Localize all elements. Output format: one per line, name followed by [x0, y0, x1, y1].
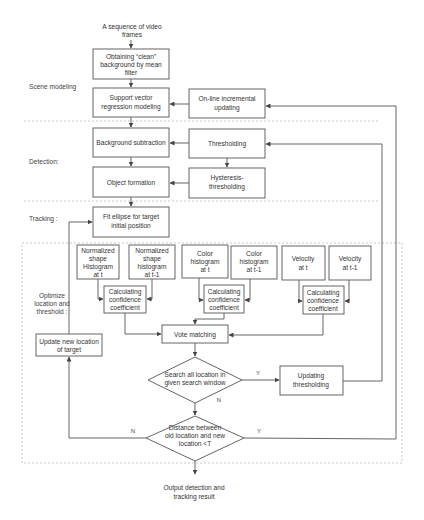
- svg-text:histogram: histogram: [138, 263, 167, 271]
- node-fit-ellipse: Fit ellipse for target initial position: [93, 207, 169, 237]
- section-label-detection: Detection:: [29, 158, 59, 165]
- node-confidence-color: Calculating confidence coefficient: [204, 285, 244, 313]
- svg-text:Calculating: Calculating: [208, 288, 241, 296]
- svg-text:Object formation: Object formation: [107, 179, 156, 187]
- svg-text:of target: of target: [57, 346, 81, 354]
- svg-text:Output detection and: Output detection and: [163, 484, 225, 492]
- svg-text:thresholding: thresholding: [293, 381, 329, 389]
- svg-text:A sequence of video: A sequence of video: [102, 23, 162, 31]
- input-label: A sequence of video frames: [102, 23, 162, 38]
- node-velocity-t: Velocity at t: [282, 246, 325, 280]
- svg-text:location and: location and: [34, 300, 70, 307]
- node-object-formation: Object formation: [93, 167, 169, 197]
- svg-text:Calculating: Calculating: [307, 289, 340, 297]
- svg-text:background by mean: background by mean: [100, 61, 162, 69]
- label-search-yes: Y: [256, 370, 260, 376]
- edge-color-t-to-confidence: [199, 278, 203, 300]
- node-search-decision: Search all location in given search wind…: [148, 357, 242, 403]
- svg-text:Normalized: Normalized: [135, 247, 169, 254]
- edge-shape-t-to-confidence: [98, 279, 103, 299]
- svg-text:confidence: confidence: [307, 297, 339, 304]
- svg-text:at t: at t: [200, 266, 209, 273]
- svg-text:threshold :: threshold :: [37, 308, 68, 315]
- node-mean-filter: Obtaining “clean” background by mean fil…: [93, 49, 169, 79]
- svg-text:coefficient: coefficient: [110, 304, 140, 311]
- node-confidence-shape: Calculating confidence coefficient: [104, 286, 146, 313]
- node-svr-modeling: Support vector regression modeling: [93, 88, 169, 117]
- svg-text:Search all location in: Search all location in: [165, 371, 226, 378]
- node-shape-histogram-t: Normalized shape Histogram at t: [77, 245, 119, 279]
- svg-text:Fit ellipse for target: Fit ellipse for target: [103, 213, 159, 221]
- section-label-optimize: Optimize location and threshold :: [34, 292, 70, 315]
- flowchart: Scene modeling Detection: Tracking : Opt…: [0, 0, 424, 520]
- svg-text:Histogram: Histogram: [83, 263, 114, 271]
- svg-text:Hysteresis-: Hysteresis-: [211, 174, 244, 182]
- label-distance-no: N: [131, 428, 135, 434]
- node-update-location: Update new location of target: [36, 334, 102, 356]
- svg-text:given search window: given search window: [164, 379, 225, 387]
- svg-text:shape: shape: [89, 255, 107, 263]
- svg-text:Optimize: Optimize: [39, 292, 65, 300]
- edge-confidence-velocity-to-vote: [229, 314, 323, 335]
- svg-text:Color: Color: [197, 250, 214, 257]
- svg-text:updating: updating: [214, 104, 240, 112]
- section-label-scene-modeling: Scene modeling: [29, 83, 77, 91]
- svg-text:Velocity: Velocity: [339, 255, 362, 263]
- svg-text:confidence: confidence: [109, 296, 141, 303]
- svg-text:Color: Color: [246, 250, 263, 257]
- svg-text:Velocity: Velocity: [292, 255, 315, 263]
- svg-text:Calculating: Calculating: [109, 288, 142, 296]
- svg-text:Obtaining “clean”: Obtaining “clean”: [106, 53, 156, 61]
- svg-text:coefficient: coefficient: [308, 305, 338, 312]
- node-shape-histogram-t1: Normalized shape histogram at t-1: [129, 245, 175, 279]
- edge-shape-t1-to-confidence: [147, 279, 152, 299]
- section-label-tracking: Tracking :: [29, 215, 58, 223]
- svg-text:shape: shape: [143, 255, 161, 263]
- svg-text:On-line incremental: On-line incremental: [198, 95, 256, 102]
- svg-text:Support vector: Support vector: [110, 94, 154, 102]
- node-hysteresis-thresholding: Hysteresis- thresholding: [189, 168, 265, 198]
- edge-confidence-color-to-vote: [195, 313, 224, 324]
- node-vote-matching: Vote matching: [162, 325, 228, 343]
- label-search-no: N: [217, 397, 221, 403]
- svg-text:location <T: location <T: [179, 440, 211, 447]
- node-distance-decision: Distance between old location and new lo…: [146, 416, 244, 461]
- svg-text:Updating: Updating: [298, 372, 325, 380]
- svg-text:at t: at t: [93, 271, 102, 278]
- svg-text:old location and new: old location and new: [165, 432, 225, 439]
- output-label: Output detection and tracking result: [163, 484, 225, 501]
- label-distance-yes: Y: [257, 428, 261, 434]
- node-velocity-t1: Velocity at t-1: [329, 246, 371, 280]
- edge-velocity-t-to-confidence: [299, 280, 302, 301]
- edge-confidence-shape-to-vote: [125, 313, 161, 334]
- node-updating-thresholding: Updating thresholding: [280, 366, 343, 395]
- svg-text:at t-1: at t-1: [342, 264, 357, 271]
- node-online-updating: On-line incremental updating: [189, 89, 265, 118]
- svg-text:thresholding: thresholding: [209, 183, 245, 191]
- edge-distance-no: [69, 357, 146, 438]
- edge-color-t1-to-confidence: [245, 279, 250, 300]
- svg-text:filter: filter: [125, 69, 138, 76]
- edge-velocity-t1-to-confidence: [345, 280, 349, 301]
- svg-text:at t-1: at t-1: [246, 266, 261, 273]
- svg-text:regression modeling: regression modeling: [101, 103, 161, 111]
- svg-text:Background subtraction: Background subtraction: [96, 139, 166, 147]
- svg-text:Update new location: Update new location: [39, 338, 99, 346]
- svg-text:Vote matching: Vote matching: [174, 331, 216, 339]
- svg-text:tracking result: tracking result: [173, 493, 214, 501]
- svg-text:histogram: histogram: [191, 258, 220, 266]
- svg-text:histogram: histogram: [240, 258, 269, 266]
- svg-text:initial position: initial position: [111, 222, 151, 230]
- svg-text:Thresholding: Thresholding: [208, 140, 246, 148]
- svg-text:at t: at t: [298, 264, 307, 271]
- node-color-histogram-t1: Color histogram at t-1: [231, 246, 277, 279]
- node-confidence-velocity: Calculating confidence coefficient: [303, 286, 344, 314]
- svg-text:at t-1: at t-1: [144, 271, 159, 278]
- node-thresholding: Thresholding: [189, 129, 265, 158]
- svg-text:confidence: confidence: [208, 296, 240, 303]
- svg-text:Distance between: Distance between: [169, 424, 222, 431]
- node-color-histogram-t: Color histogram at t: [182, 245, 228, 278]
- svg-text:frames: frames: [122, 31, 143, 38]
- node-background-subtraction: Background subtraction: [93, 128, 169, 157]
- svg-text:Normalized: Normalized: [81, 247, 115, 254]
